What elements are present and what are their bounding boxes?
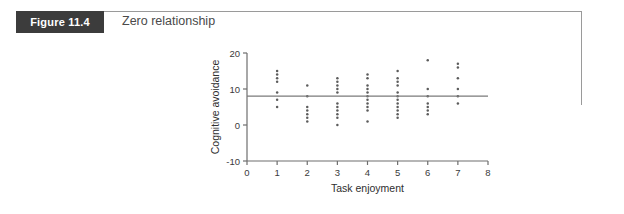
x-axis: 012345678 [244, 161, 490, 178]
data-point [336, 109, 339, 112]
data-point [306, 109, 309, 112]
data-point [276, 106, 279, 109]
data-point [366, 106, 369, 109]
y-tick-label: 0 [235, 120, 240, 131]
data-point [306, 120, 309, 123]
x-tick-label: 2 [305, 167, 310, 178]
figure-caption: Zero relationship [122, 14, 215, 28]
data-point [336, 117, 339, 120]
x-tick-label: 3 [335, 167, 340, 178]
data-point [366, 120, 369, 123]
data-point [336, 106, 339, 109]
x-tick-label: 8 [485, 167, 490, 178]
data-point [306, 106, 309, 109]
data-point [306, 117, 309, 120]
data-point [396, 106, 399, 109]
data-point [427, 113, 430, 116]
figure-number-label: Figure 11.4 [30, 16, 90, 28]
x-tick-label: 1 [274, 167, 279, 178]
data-point [396, 117, 399, 120]
data-point [396, 109, 399, 112]
data-point [306, 113, 309, 116]
y-tick-label: -10 [226, 156, 240, 167]
x-tick-label: 0 [244, 167, 249, 178]
data-point [336, 124, 339, 127]
data-point [366, 109, 369, 112]
data-point [427, 106, 430, 109]
x-tick-label: 5 [395, 167, 400, 178]
x-tick-label: 6 [425, 167, 430, 178]
x-axis-title: Task enjoyment [331, 182, 404, 194]
figure-number-badge: Figure 11.4 [16, 11, 104, 33]
x-tick-label: 4 [365, 167, 370, 178]
data-point [396, 113, 399, 116]
data-point [336, 113, 339, 116]
data-point [427, 109, 430, 112]
x-tick-label: 7 [455, 167, 460, 178]
